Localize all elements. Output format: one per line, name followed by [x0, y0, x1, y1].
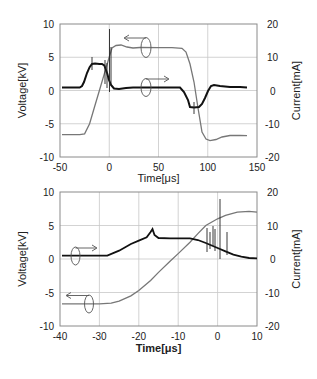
tick-label: 20: [267, 19, 279, 30]
tick-label: -30: [92, 331, 107, 342]
tick-label: 5: [48, 52, 54, 63]
tick-label: 10: [267, 52, 279, 63]
bottom-right-tick-labels: 20 10 0 -10 -20: [265, 187, 280, 332]
bottom-y-axis-label: Voltage[kV]: [16, 231, 28, 287]
tick-label: 0: [48, 254, 54, 265]
top-current-trace: [62, 64, 247, 108]
tick-label: -5: [45, 119, 54, 130]
tick-label: -20: [265, 321, 280, 332]
top-right-tick-labels: 20 10 0 -10 -20: [265, 19, 280, 163]
tick-label: -50: [53, 162, 68, 173]
tick-label: 10: [43, 187, 55, 198]
tick-label: 0: [48, 86, 54, 97]
top-current-axis-indicator: [141, 76, 169, 97]
tick-label: -10: [265, 288, 280, 299]
bottom-plot: 10 5 0 -5 -10 20 10 0 -10 -20 -40 -30 -2…: [16, 187, 302, 354]
tick-label: 5: [48, 221, 54, 232]
bottom-x-tick-labels: -40 -30 -20 -10 0 10: [53, 331, 263, 342]
tick-label: 0: [270, 86, 276, 97]
bottom-gridlines: [60, 192, 257, 326]
tick-label: -10: [171, 331, 186, 342]
tick-label: 0: [106, 162, 112, 173]
top-y2-axis-label: Current[mA]: [290, 61, 302, 120]
top-voltage-axis-indicator: [124, 35, 151, 58]
tick-label: 0: [215, 331, 221, 342]
bottom-y2-axis-label: Current[mA]: [290, 229, 302, 288]
top-voltage-trace: [62, 45, 247, 141]
tick-label: -5: [45, 288, 54, 299]
tick-label: -40: [53, 331, 68, 342]
tick-label: -10: [265, 119, 280, 130]
bottom-voltage-axis-indicator: [66, 293, 94, 314]
top-left-tick-labels: 10 5 0 -5 -10: [40, 19, 55, 163]
chart-figure: 10 5 0 -5 -10 20 10 0 -10 -20 -50 0 50 1…: [0, 0, 317, 379]
tick-label: 0: [270, 254, 276, 265]
tick-label: 10: [43, 19, 55, 30]
tick-label: -20: [265, 152, 280, 163]
tick-label: -20: [132, 331, 147, 342]
tick-label: 10: [251, 331, 263, 342]
bottom-x-axis-label: Time[μs]: [136, 342, 182, 354]
top-y-axis-label: Voltage[kV]: [16, 63, 28, 119]
bottom-left-tick-labels: 10 5 0 -5 -10: [40, 187, 55, 332]
top-current-spikes: [92, 29, 194, 114]
tick-label: 100: [199, 162, 216, 173]
top-gridlines: [60, 24, 257, 157]
top-plot: 10 5 0 -5 -10 20 10 0 -10 -20 -50 0 50 1…: [16, 19, 302, 184]
tick-label: 10: [267, 221, 279, 232]
top-x-axis-label: Time[μs]: [138, 172, 180, 184]
tick-label: 20: [267, 187, 279, 198]
bottom-current-trace: [62, 229, 257, 258]
tick-label: 150: [249, 162, 266, 173]
